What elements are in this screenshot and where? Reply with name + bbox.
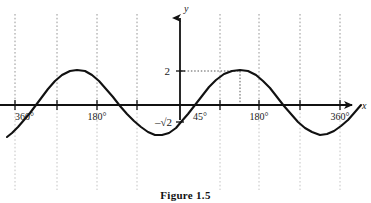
x-tick-label-0: 360°: [15, 111, 34, 122]
y-value-label-2: 2: [165, 65, 171, 77]
gridlines: [15, 14, 340, 190]
x-axis-label: x: [361, 100, 367, 111]
x-tick-label-3: 180°: [250, 111, 269, 122]
trigonometric-graph: 360° 180° 45° 180° 360° 2 –√2 x y: [0, 0, 371, 203]
figure-caption: Figure 1.5: [0, 189, 371, 201]
sine-curve: [7, 70, 361, 137]
x-tick-label-2: 45°: [193, 111, 207, 122]
x-tick-label-4: 360°: [331, 111, 350, 122]
y-axis-label: y: [183, 3, 189, 14]
x-tick-label-1: 180°: [88, 111, 107, 122]
figure-container: 360° 180° 45° 180° 360° 2 –√2 x y Figure…: [0, 0, 371, 203]
y-intercept-label-neg-sqrt2: –√2: [154, 116, 172, 128]
sine-curve-group: [7, 70, 361, 137]
reference-lines: [181, 71, 240, 105]
axis-lines: [0, 18, 352, 120]
